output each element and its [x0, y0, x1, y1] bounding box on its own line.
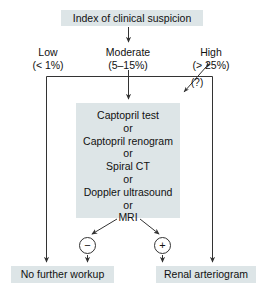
branch-label-high: High (> 25%): [182, 46, 240, 72]
node-index-of-clinical-suspicion: Index of clinical suspicion: [61, 10, 203, 26]
branch-label-moderate: Moderate (5–15%): [96, 46, 160, 72]
uncertain-marker-label: (?): [191, 77, 203, 88]
node-no-further-workup: No further workup: [11, 266, 114, 283]
node-renal-arteriogram: Renal arteriogram: [156, 266, 256, 283]
result-positive-icon: +: [154, 237, 171, 254]
result-negative-icon: −: [79, 237, 96, 254]
branch-label-low: Low (< 1%): [22, 46, 74, 72]
flowchart-diagram: Index of clinical suspicion Low (< 1%) M…: [0, 0, 264, 291]
edge-test-to-positive: [140, 219, 159, 234]
node-diagnostic-tests: Captopril test or Captopril renogram or …: [76, 103, 180, 218]
edge-test-to-negative: [92, 219, 117, 234]
